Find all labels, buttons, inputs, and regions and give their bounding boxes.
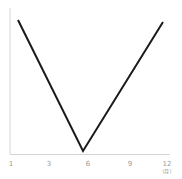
- x-unit-label: (月): [163, 168, 172, 175]
- x-tick-3: 3: [47, 160, 51, 168]
- x-tick-12: 12: [163, 160, 172, 168]
- x-tick-1: 1: [9, 160, 13, 168]
- data-line: [18, 20, 163, 151]
- x-tick-6: 6: [86, 160, 91, 168]
- v-shaped-line-chart: 1 3 6 9 12 (月): [0, 0, 182, 179]
- x-tick-9: 9: [128, 160, 132, 168]
